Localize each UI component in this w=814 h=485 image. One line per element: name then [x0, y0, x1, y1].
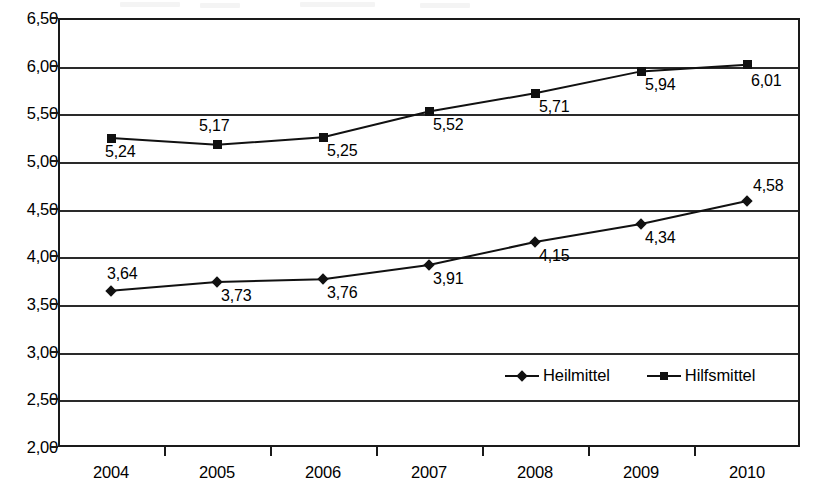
x-axis-tick-label: 2008 — [490, 463, 580, 482]
x-axis-tick-mark — [482, 447, 484, 456]
y-axis-tick-mark — [50, 112, 58, 114]
x-axis-tick-mark — [694, 447, 696, 456]
x-axis-tick-label: 2006 — [278, 463, 368, 482]
y-axis-tick-mark — [50, 65, 58, 67]
x-axis-tick-label: 2007 — [384, 463, 474, 482]
legend-item-heilmittel[interactable]: Heilmittel — [505, 366, 610, 385]
legend-item-label: Heilmittel — [543, 366, 610, 385]
gridline — [60, 162, 798, 164]
x-axis-tick-label: 2010 — [702, 463, 792, 482]
gridline — [60, 257, 798, 259]
x-axis-tick-mark — [376, 447, 378, 456]
x-axis-tick-mark — [164, 447, 166, 456]
x-axis: 2004200520062007200820092010 — [0, 447, 814, 485]
gridline — [60, 353, 798, 355]
x-axis-tick-label: 2009 — [596, 463, 686, 482]
y-axis-tick-mark — [50, 160, 58, 162]
legend-item-label: Hilfsmittel — [685, 366, 755, 385]
line-chart: 6,506,005,505,004,504,003,503,002,502,00… — [0, 0, 814, 485]
y-axis-tick-mark — [50, 351, 58, 353]
x-axis-tick-label: 2005 — [172, 463, 262, 482]
y-axis: 6,506,005,505,004,504,003,503,002,502,00 — [0, 0, 58, 485]
gridline — [60, 114, 798, 116]
scan-artifact-smudges — [0, 0, 814, 14]
x-axis-tick-mark — [270, 447, 272, 456]
gridline — [60, 305, 798, 307]
y-axis-tick-mark — [50, 398, 58, 400]
y-axis-tick-mark — [50, 303, 58, 305]
chart-legend: HeilmittelHilfsmittel — [505, 366, 755, 385]
y-axis-tick-mark — [50, 255, 58, 257]
y-axis-tick-mark — [50, 17, 58, 19]
diamond-marker-icon — [505, 370, 539, 382]
x-axis-tick-label: 2004 — [66, 463, 156, 482]
gridline — [60, 400, 798, 402]
legend-item-hilfsmittel[interactable]: Hilfsmittel — [647, 366, 755, 385]
square-marker-icon — [647, 370, 681, 382]
x-axis-tick-mark — [588, 447, 590, 456]
y-axis-tick-mark — [50, 208, 58, 210]
gridline — [60, 67, 798, 69]
gridline — [60, 210, 798, 212]
